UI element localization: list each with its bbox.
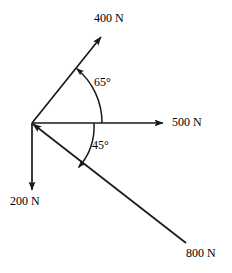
force-800-label: 800 N [186,247,216,259]
force-vector-diagram: 400 N 500 N 200 N 800 N 65° 45° [0,0,232,273]
force-400-label: 400 N [94,12,124,24]
angle-45-label: 45° [92,139,109,151]
force-200-label: 200 N [10,195,40,207]
force-800-arrow [33,124,186,243]
angle-65-label: 65° [94,76,111,88]
force-400-arrow [32,37,101,123]
vector-diagram-canvas [0,0,232,273]
force-500-label: 500 N [172,116,202,128]
